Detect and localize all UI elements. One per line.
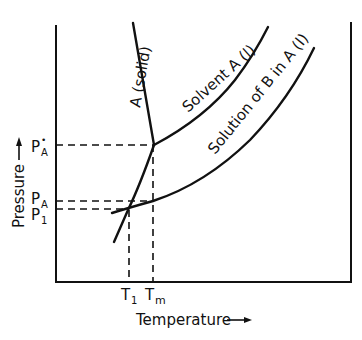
up-arrow-icon <box>16 137 22 160</box>
p1-main: P <box>31 206 40 224</box>
guide-lines <box>56 145 154 282</box>
solid-curve-lower <box>114 145 154 242</box>
solution-curve-label: Solution of B in A (l) <box>204 30 312 158</box>
t1-sub: 1 <box>131 295 137 306</box>
tm-main: T <box>144 286 155 304</box>
x-tick-tm: T m <box>144 286 166 307</box>
pa-star-main: P <box>31 138 40 156</box>
t1-main: T <box>120 286 131 304</box>
x-axis-label: Temperature <box>135 311 231 329</box>
pa-star-sub: A <box>41 147 48 158</box>
solid-curve-label: A (solid) <box>126 45 154 109</box>
p1-sub: 1 <box>41 215 47 226</box>
x-tick-t1: T 1 <box>120 286 137 306</box>
pa-star-sup: • <box>41 135 46 145</box>
phase-diagram: A (solid) Solvent A (l) Solution of B in… <box>0 0 362 340</box>
tm-sub: m <box>155 294 166 307</box>
y-axis-label: Pressure <box>10 164 28 228</box>
y-tick-pa-star: P A • <box>31 135 48 158</box>
pa-sub: A <box>41 199 48 210</box>
